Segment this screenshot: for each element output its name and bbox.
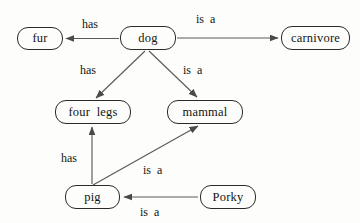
edge-label-pig-has-four-legs: has bbox=[61, 152, 77, 164]
node-mammal-label: mammal bbox=[183, 106, 228, 119]
edge-label-dog-has-fur: has bbox=[82, 18, 98, 30]
node-fur-label: fur bbox=[32, 32, 47, 45]
edge-label-porky-isa-pig: is a bbox=[140, 206, 159, 218]
node-pig[interactable]: pig bbox=[65, 185, 120, 209]
node-mammal[interactable]: mammal bbox=[167, 100, 243, 124]
edge-label-pig-isa-mammal: is a bbox=[143, 164, 162, 176]
node-pig-label: pig bbox=[84, 191, 101, 204]
node-carnivore-label: carnivore bbox=[291, 32, 340, 45]
node-porky[interactable]: Porky bbox=[200, 185, 256, 209]
edge-label-dog-isa-mammal: is a bbox=[183, 64, 202, 76]
node-four-legs[interactable]: four legs bbox=[55, 100, 131, 124]
node-carnivore[interactable]: carnivore bbox=[281, 26, 350, 50]
edge-dog-has-four-legs bbox=[96, 51, 145, 98]
edge-label-dog-isa-carnivore: is a bbox=[196, 13, 215, 25]
node-fur[interactable]: fur bbox=[17, 27, 63, 50]
node-dog[interactable]: dog bbox=[120, 26, 176, 50]
node-four-legs-label: four legs bbox=[68, 106, 117, 119]
node-porky-label: Porky bbox=[213, 191, 244, 204]
node-dog-label: dog bbox=[138, 32, 157, 45]
edge-label-dog-has-four-legs: has bbox=[80, 64, 96, 76]
diagram-canvas: fur dog carnivore four legs mammal pig P… bbox=[0, 0, 360, 223]
